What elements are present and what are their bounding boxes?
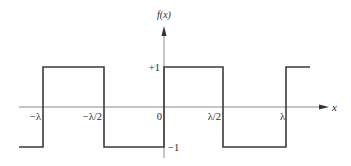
x-tick-lambda: λ: [280, 111, 286, 122]
y-axis-arrow-icon: [162, 26, 167, 36]
x-tick-half-lambda: λ/2: [208, 111, 221, 122]
x-axis-label: x: [331, 101, 337, 113]
y-tick-plus-one: +1: [149, 62, 160, 73]
y-axis-label: f(x): [157, 9, 172, 21]
y-tick-minus-one: −1: [168, 142, 179, 153]
x-tick-neg-lambda: −λ: [30, 111, 42, 122]
x-axis-arrow-icon: [319, 105, 329, 110]
x-tick-zero: 0: [157, 111, 162, 122]
square-wave-chart: f(x) x +1 −1 −λ −λ/2 0 λ/2 λ: [0, 0, 351, 166]
x-tick-neg-half-lambda: −λ/2: [83, 111, 102, 122]
